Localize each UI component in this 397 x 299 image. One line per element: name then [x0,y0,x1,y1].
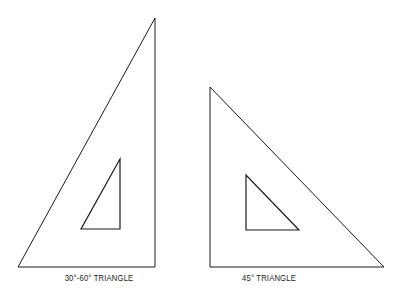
triangle-45 [210,87,384,267]
triangles-diagram [0,0,397,299]
triangle-30-60-outer [18,18,155,267]
triangle-45-inner-cutout [246,175,299,230]
triangle-30-60-inner-cutout [81,159,120,229]
label-30-60-triangle: 30°-60° TRIANGLE [65,273,134,283]
triangle-30-60 [18,18,155,267]
label-45-triangle: 45° TRIANGLE [242,273,296,283]
triangle-45-outer [210,87,384,267]
